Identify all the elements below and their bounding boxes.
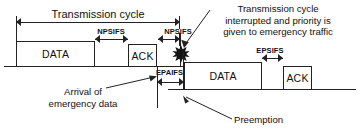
interrupt-note: Transmission cycle interrupted and prior…: [196, 3, 360, 38]
arrival-leader-line: [104, 74, 160, 92]
interrupt-note-line-1: Transmission cycle: [196, 3, 360, 15]
ack-frame-1-label: ACK: [131, 50, 153, 62]
data-frame-2: DATA: [184, 62, 262, 90]
arrival-note-line-2: emergency data: [28, 98, 138, 110]
preemption-note: Preemption: [234, 114, 324, 126]
data-frame-1: DATA: [16, 41, 95, 67]
data-frame-2-label: DATA: [209, 70, 236, 82]
preemption-note-line-1: Preemption: [234, 114, 324, 126]
transmission-cycle-measure: [16, 18, 180, 27]
data-frame-1-label: DATA: [42, 48, 69, 60]
npsifs-1-measure: [95, 35, 128, 44]
ack-frame-1: ACK: [128, 44, 157, 67]
ack-frame-2: ACK: [283, 66, 312, 90]
epsifs-measure: [262, 54, 283, 63]
preemption-leader-line: [180, 94, 236, 122]
epaifs-label: EPAIFS: [156, 68, 186, 77]
preemption-timing-diagram: Transmission cycle NPSIFS NPSIFS DATA AC…: [0, 0, 362, 134]
epaifs-measure: [157, 78, 184, 87]
interrupt-note-line-2: interrupted and priority is: [196, 15, 360, 27]
interrupt-leader-line: [176, 8, 212, 53]
interrupt-note-line-3: given to emergency traffic: [196, 26, 360, 38]
ack-frame-2-label: ACK: [286, 72, 308, 84]
